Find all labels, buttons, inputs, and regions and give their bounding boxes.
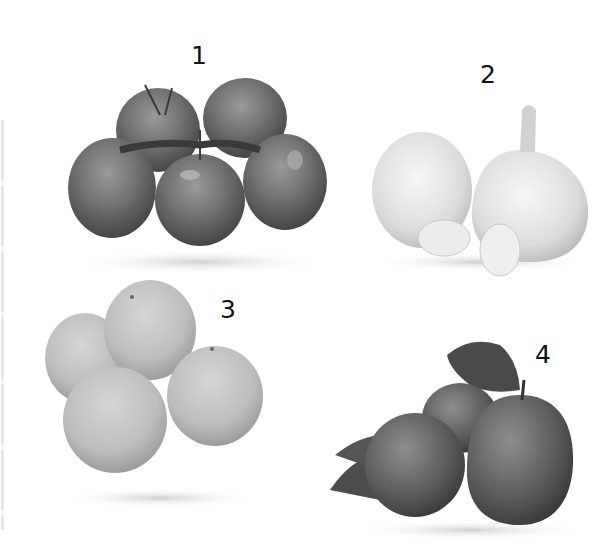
apples-image <box>0 0 605 551</box>
